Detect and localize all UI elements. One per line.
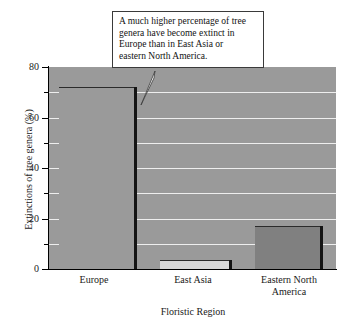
y-axis-title: Extinctions of tree genera (%)	[23, 90, 34, 250]
y-tick-60	[42, 118, 49, 119]
callout-line-4: eastern North America.	[119, 51, 257, 63]
callout-pointer-icon	[130, 71, 156, 105]
bar-eastern-north-america[interactable]	[255, 226, 323, 269]
bar-east-asia-top-edge	[160, 260, 232, 261]
bar-europe-right-edge	[134, 87, 137, 269]
x-axis-line	[48, 269, 337, 270]
bar-east-asia-face	[160, 260, 229, 269]
plot-area	[49, 67, 336, 269]
x-axis-title: Floristic Region	[108, 306, 278, 317]
x-label-east-asia: East Asia	[147, 274, 239, 286]
bar-east-asia-right-edge	[229, 260, 232, 269]
y-tick-80	[42, 67, 49, 68]
bar-europe[interactable]	[59, 87, 137, 269]
bar-eastern-north-america-face	[255, 226, 320, 269]
bar-europe-face	[59, 87, 134, 269]
y-label-80: 80	[0, 62, 39, 72]
callout-line-1: A much higher percentage of tree	[119, 16, 257, 28]
x-label-europe: Europe	[48, 274, 140, 286]
bar-eastern-north-america-top-edge	[255, 226, 323, 227]
callout-annotation: A much higher percentage of tree genera …	[112, 11, 264, 68]
x-label-ena-line2: America	[243, 286, 335, 298]
y-tick-0	[42, 269, 49, 270]
x-label-eastern-north-america: Eastern North America	[243, 274, 335, 298]
x-label-ena-line1: Eastern North	[243, 274, 335, 286]
y-tick-10	[44, 244, 49, 245]
y-tick-70	[44, 92, 49, 93]
y-tick-20	[42, 219, 49, 220]
callout-line-3: Europe than in East Asia or	[119, 39, 257, 51]
bar-chart-figure: 80 60 40 20 0 Extinctions of tree genera…	[0, 0, 352, 328]
y-tick-30	[44, 193, 49, 194]
y-tick-50	[44, 143, 49, 144]
callout-line-2: genera have become extinct in	[119, 28, 257, 40]
bar-east-asia[interactable]	[160, 260, 232, 269]
bar-eastern-north-america-right-edge	[320, 226, 323, 269]
y-label-0: 0	[0, 264, 39, 274]
bar-europe-top-edge	[59, 87, 137, 88]
y-tick-40	[42, 168, 49, 169]
